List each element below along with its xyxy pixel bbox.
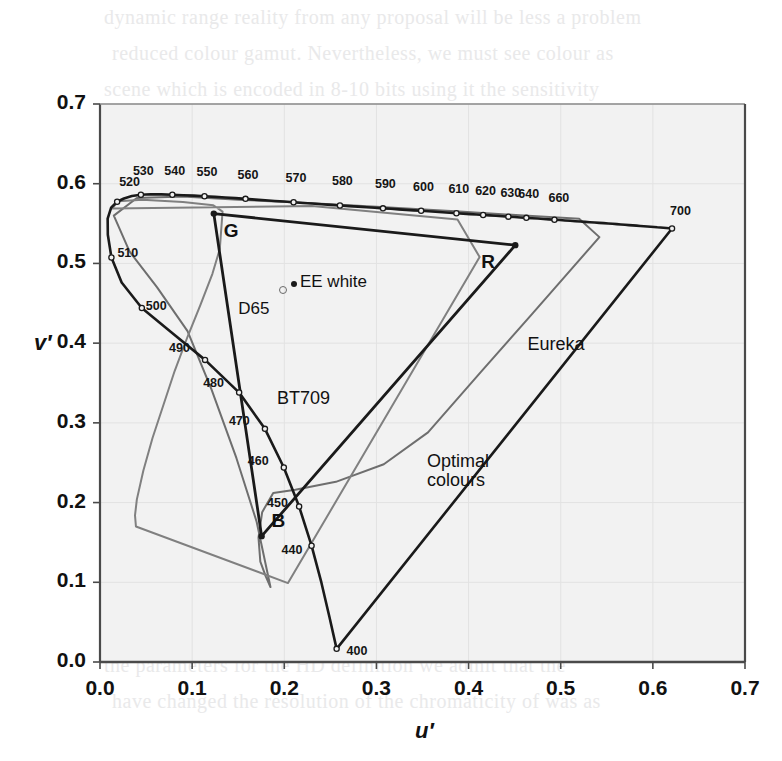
primary-vertex-R <box>512 242 518 248</box>
wavelength-label-510: 510 <box>117 246 138 260</box>
primary-vertex-B <box>258 533 264 539</box>
wavelength-marker-550 <box>202 194 207 199</box>
wavelength-label-500: 500 <box>146 299 167 313</box>
white-point-label-D65: D65 <box>238 299 269 319</box>
gamut-label-Eureka: Eureka <box>528 335 585 354</box>
wavelength-label-480: 480 <box>203 376 224 390</box>
wavelength-label-540: 540 <box>164 164 185 178</box>
wavelength-label-660: 660 <box>548 191 569 205</box>
wavelength-label-580: 580 <box>332 174 353 188</box>
wavelength-label-450: 450 <box>267 496 288 510</box>
wavelength-marker-640 <box>524 215 529 220</box>
wavelength-label-400: 400 <box>347 644 368 658</box>
wavelength-marker-570 <box>291 200 296 205</box>
gamut-label-optimal-colours: Optimalcolours <box>427 452 489 490</box>
wavelength-marker-610 <box>454 211 459 216</box>
white-point-marker-D65 <box>279 286 287 294</box>
gamut-label-BT709: BT709 <box>277 389 330 408</box>
wavelength-marker-490 <box>202 357 207 362</box>
wavelength-label-620: 620 <box>475 184 496 198</box>
wavelength-label-600: 600 <box>413 180 434 194</box>
wavelength-marker-630 <box>506 214 511 219</box>
wavelength-label-470: 470 <box>229 414 250 428</box>
wavelength-marker-620 <box>481 212 486 217</box>
wavelength-marker-450 <box>297 504 302 509</box>
wavelength-label-530: 530 <box>133 164 154 178</box>
wavelength-marker-600 <box>419 208 424 213</box>
chromaticity-figure: dynamic range reality from any proposal … <box>0 0 782 761</box>
white-point-label-EE-white: EE white <box>300 272 367 292</box>
primary-label-B: B <box>272 510 286 532</box>
series-optimal-colours <box>114 196 600 587</box>
wavelength-label-610: 610 <box>448 182 469 196</box>
wavelength-marker-660 <box>552 217 557 222</box>
wavelength-marker-460 <box>281 465 286 470</box>
primary-label-G: G <box>224 220 239 242</box>
wavelength-label-460: 460 <box>248 454 269 468</box>
wavelength-label-490: 490 <box>169 341 190 355</box>
wavelength-marker-400 <box>334 646 339 651</box>
wavelength-label-590: 590 <box>375 177 396 191</box>
wavelength-label-560: 560 <box>237 168 258 182</box>
primary-vertex-G <box>211 210 217 216</box>
wavelength-marker-700 <box>669 226 674 231</box>
wavelength-marker-530 <box>138 192 143 197</box>
wavelength-marker-590 <box>380 206 385 211</box>
wavelength-marker-470 <box>262 426 267 431</box>
wavelength-marker-540 <box>170 192 175 197</box>
wavelength-marker-560 <box>243 196 248 201</box>
wavelength-marker-510 <box>109 255 114 260</box>
wavelength-label-640: 640 <box>518 187 539 201</box>
wavelength-label-700: 700 <box>670 204 691 218</box>
wavelength-label-570: 570 <box>286 171 307 185</box>
primary-label-R: R <box>481 251 495 273</box>
wavelength-marker-520 <box>115 199 120 204</box>
plot-canvas <box>0 0 782 761</box>
wavelength-label-440: 440 <box>282 543 303 557</box>
wavelength-marker-480 <box>237 390 242 395</box>
wavelength-marker-440 <box>309 543 314 548</box>
wavelength-label-550: 550 <box>196 165 217 179</box>
wavelength-marker-500 <box>139 305 144 310</box>
wavelength-marker-580 <box>337 203 342 208</box>
